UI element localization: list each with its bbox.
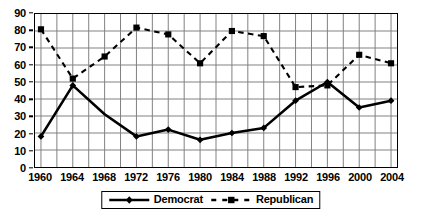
data-point-republican-1980 bbox=[197, 60, 203, 66]
x-tick-label-1984: 1984 bbox=[220, 171, 244, 183]
y-tick-mark bbox=[29, 98, 33, 99]
series-line-democrat bbox=[41, 82, 391, 140]
data-series-layer bbox=[35, 14, 397, 167]
plot-area bbox=[34, 13, 398, 168]
y-tick-mark bbox=[29, 116, 33, 117]
x-tick-label-2004: 2004 bbox=[380, 171, 404, 183]
x-tick-label-1960: 1960 bbox=[28, 171, 52, 183]
x-tick-label-2000: 2000 bbox=[348, 171, 372, 183]
data-point-republican-1960 bbox=[38, 26, 44, 32]
y-tick-label-80: 80 bbox=[14, 24, 26, 36]
data-point-republican-1968 bbox=[102, 53, 108, 59]
legend-entry-republican: Republican bbox=[210, 193, 313, 206]
y-tick-label-40: 40 bbox=[14, 93, 26, 105]
y-tick-mark bbox=[29, 30, 33, 31]
y-tick-label-50: 50 bbox=[14, 76, 26, 88]
legend-swatch-republican-dashed-line-square-icon bbox=[210, 194, 252, 206]
data-point-democrat-1976 bbox=[165, 126, 172, 133]
data-point-republican-1996 bbox=[324, 82, 330, 88]
y-tick-mark bbox=[29, 150, 33, 151]
data-point-republican-1992 bbox=[292, 84, 298, 90]
x-tick-label-1980: 1980 bbox=[188, 171, 212, 183]
y-tick-mark bbox=[29, 64, 33, 65]
y-tick-mark bbox=[29, 12, 33, 13]
data-point-democrat-1980 bbox=[197, 136, 204, 143]
x-tick-label-1972: 1972 bbox=[124, 171, 148, 183]
y-tick-label-60: 60 bbox=[14, 59, 26, 71]
x-tick-label-1988: 1988 bbox=[252, 171, 276, 183]
y-tick-label-30: 30 bbox=[14, 110, 26, 122]
data-point-republican-1984 bbox=[229, 28, 235, 34]
y-tick-label-20: 20 bbox=[14, 128, 26, 140]
legend-swatch-democrat-solid-line-diamond-icon bbox=[108, 194, 150, 206]
x-tick-label-1968: 1968 bbox=[92, 171, 116, 183]
y-tick-mark bbox=[29, 81, 33, 82]
chart-legend: Democrat Republican bbox=[101, 191, 320, 209]
data-point-republican-2004 bbox=[388, 60, 394, 66]
data-point-democrat-2004 bbox=[388, 97, 395, 104]
x-tick-label-1996: 1996 bbox=[316, 171, 340, 183]
data-point-republican-1964 bbox=[70, 76, 76, 82]
data-point-democrat-1984 bbox=[229, 130, 236, 137]
y-tick-label-10: 10 bbox=[14, 145, 26, 157]
series-line-republican bbox=[41, 28, 391, 88]
x-axis-tick-labels: 1960196419681972197619801984198819921996… bbox=[34, 171, 398, 187]
y-tick-label-90: 90 bbox=[14, 7, 26, 19]
data-point-republican-1988 bbox=[261, 33, 267, 39]
y-tick-mark bbox=[29, 133, 33, 134]
data-point-republican-2000 bbox=[356, 52, 362, 58]
y-tick-label-70: 70 bbox=[14, 41, 26, 53]
y-tick-mark bbox=[29, 167, 33, 168]
x-tick-label-1992: 1992 bbox=[284, 171, 308, 183]
legend-entry-democrat: Democrat bbox=[108, 193, 203, 206]
data-point-republican-1976 bbox=[165, 31, 171, 37]
y-tick-label-0: 0 bbox=[20, 162, 26, 174]
y-axis-tick-labels: 0102030405060708090 bbox=[0, 13, 30, 168]
x-tick-label-1964: 1964 bbox=[60, 171, 84, 183]
chart-figure: 0102030405060708090 19601964196819721976… bbox=[0, 0, 421, 217]
data-point-republican-1972 bbox=[133, 25, 139, 31]
y-tick-mark bbox=[29, 47, 33, 48]
legend-label-republican: Republican bbox=[256, 193, 313, 206]
x-tick-label-1976: 1976 bbox=[156, 171, 180, 183]
legend-label-democrat: Democrat bbox=[154, 193, 203, 206]
